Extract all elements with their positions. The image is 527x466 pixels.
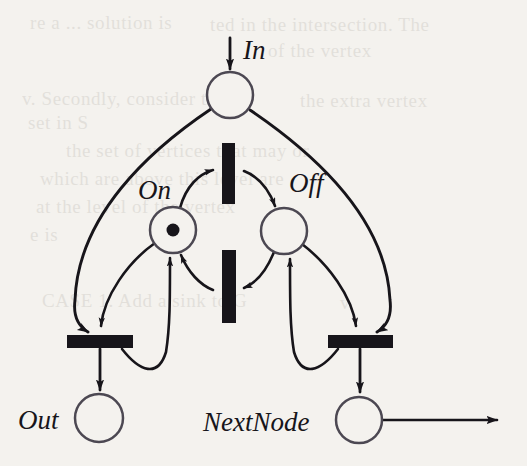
arc-t-next-to-off xyxy=(290,259,338,369)
place-off[interactable] xyxy=(261,208,307,254)
arc-t-off-to-on-to-on xyxy=(181,255,213,290)
arc-on-to-t-on-to-off xyxy=(180,170,213,208)
token-on xyxy=(167,224,180,237)
place-next-node[interactable] xyxy=(336,397,382,443)
petri-net-diagram: In On Off Out NextNode xyxy=(0,0,527,466)
place-in[interactable] xyxy=(207,72,253,118)
label-off: Off xyxy=(289,168,327,198)
arc-off-to-t-next-2 xyxy=(302,244,356,326)
transition-out[interactable] xyxy=(67,335,133,348)
transition-on-to-off[interactable] xyxy=(222,143,235,204)
arc-t-out-to-on xyxy=(122,258,170,369)
arc-off-to-t-off-to-on xyxy=(244,252,274,288)
arc-t-on-to-off-to-off xyxy=(244,171,275,206)
label-on: On xyxy=(138,175,171,205)
place-out[interactable] xyxy=(75,394,123,442)
label-in: In xyxy=(242,35,266,65)
transition-next-node[interactable] xyxy=(328,335,393,348)
label-out: Out xyxy=(18,405,60,435)
label-next-node: NextNode xyxy=(202,407,309,437)
figure-canvas: re a ... solution isted in the intersect… xyxy=(0,0,527,466)
arc-on-to-t-out-2 xyxy=(101,243,155,326)
transition-off-to-on[interactable] xyxy=(222,250,236,323)
